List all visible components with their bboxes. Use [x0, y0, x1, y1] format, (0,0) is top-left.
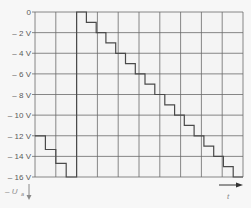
y-tick-label: – 12 V — [8, 132, 32, 141]
y-axis-label-subscript: a — [21, 191, 24, 197]
staircase-chart: 0– 2 V– 4 V– 6 V– 8 V– 10 V– 12 V– 14 V–… — [0, 0, 251, 208]
y-tick-label: – 16 V — [8, 173, 32, 182]
y-axis-label-main: – U — [4, 187, 18, 196]
right-arrow-icon — [219, 183, 243, 188]
y-tick-label: – 10 V — [8, 111, 32, 120]
x-axis-label: t — [227, 192, 230, 201]
y-tick-label: – 6 V — [12, 70, 31, 79]
y-tick-label: – 4 V — [12, 49, 31, 58]
y-tick-label: – 8 V — [12, 91, 31, 100]
y-axis-label: – U a — [4, 187, 24, 197]
down-arrow-icon — [27, 184, 32, 200]
y-tick-label: – 2 V — [12, 29, 31, 38]
y-tick-label: – 14 V — [8, 152, 32, 161]
y-tick-label: 0 — [27, 8, 32, 17]
y-tick-labels: 0– 2 V– 4 V– 6 V– 8 V– 10 V– 12 V– 14 V–… — [8, 8, 32, 182]
